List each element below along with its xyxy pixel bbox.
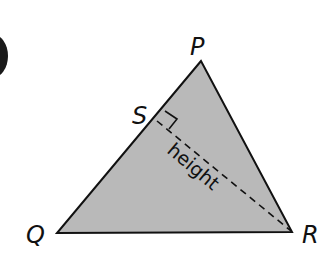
vertex-label-q: Q xyxy=(26,221,45,249)
problem-number-badge xyxy=(0,34,8,78)
triangle-diagram: P S Q R height xyxy=(0,0,334,261)
vertex-label-r: R xyxy=(302,221,319,249)
vertex-label-p: P xyxy=(190,33,205,61)
vertex-label-s: S xyxy=(132,102,147,130)
